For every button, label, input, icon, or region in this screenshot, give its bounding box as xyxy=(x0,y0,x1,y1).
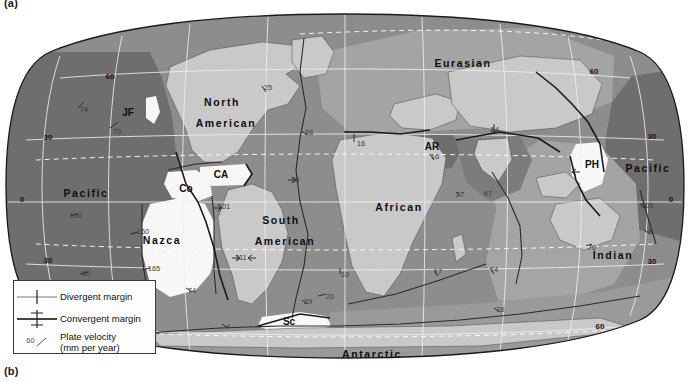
legend-label-velocity: Plate velocity (mm per year) xyxy=(60,332,120,353)
velocity-label: 100 xyxy=(70,211,83,220)
legend-row-velocity: 60 Plate velocity (mm per year) xyxy=(14,330,155,358)
legend-row-convergent: Convergent margin xyxy=(14,308,155,330)
latitude-label: 30 xyxy=(44,256,53,265)
velocity-label: 74 xyxy=(80,105,88,114)
legend-velocity-units: (mm per year) xyxy=(60,343,120,354)
plate-label: North xyxy=(204,96,240,108)
plate-label-philippine: PH xyxy=(585,159,599,170)
convergent-margin-symbol xyxy=(14,309,60,329)
latitude-label: 60 xyxy=(590,67,599,76)
legend-row-divergent: Divergent margin xyxy=(14,286,155,308)
velocity-label: 105 xyxy=(641,201,654,210)
velocity-label: 74 xyxy=(490,265,498,274)
velocity-label: 28 xyxy=(305,128,313,137)
latitude-label: 0 xyxy=(20,195,25,204)
velocity-label: 101 xyxy=(218,202,231,211)
plate-label: Eurasian xyxy=(434,57,491,69)
plate-label: South xyxy=(262,214,300,226)
velocity-label: 20 xyxy=(326,292,334,301)
plate-label: Pacific xyxy=(625,162,670,174)
velocity-label: 8 xyxy=(648,227,652,236)
latitude-label: 60 xyxy=(596,322,605,331)
plate-label: Pacific xyxy=(63,187,108,199)
velocity-label: 165 xyxy=(148,264,161,273)
velocity-label: 29 xyxy=(304,297,312,306)
plate-label-cocos: Co xyxy=(179,183,192,194)
velocity-label: 70 xyxy=(588,243,596,252)
legend-label-convergent: Convergent margin xyxy=(60,314,141,325)
legend-velocity-value: 60 xyxy=(26,336,34,345)
velocity-label: 67 xyxy=(484,189,492,198)
velocity-label: 25 xyxy=(264,83,272,92)
latitude-label: 30 xyxy=(648,257,657,266)
plate-label: American xyxy=(196,117,257,129)
latitude-label: 0 xyxy=(669,195,674,204)
plate-label: Indian xyxy=(593,249,634,261)
plate-label-juandefuca: JF xyxy=(122,107,134,118)
velocity-label: 111 xyxy=(235,253,246,262)
velocity-label: 74 xyxy=(188,286,196,295)
latitude-label: 30 xyxy=(648,132,657,141)
velocity-label: 70 xyxy=(113,127,121,136)
velocity-label: 10 xyxy=(341,270,349,279)
map-legend: Divergent margin Convergent margin 60 Pl… xyxy=(13,280,156,354)
plate-label-caribbean: CA xyxy=(214,169,228,180)
velocity-label: 80 xyxy=(82,269,90,278)
velocity-label: 38 xyxy=(291,175,299,184)
plate-velocity-symbol: 60 xyxy=(14,332,60,348)
velocity-label: 4 xyxy=(226,322,230,331)
latitude-label: 60 xyxy=(106,72,115,81)
plate-label: American xyxy=(255,235,316,247)
panel-label-a: (a) xyxy=(4,0,18,9)
velocity-label: 27 xyxy=(456,190,464,199)
velocity-label: 17 xyxy=(434,267,442,276)
plate-label-arabian: AR xyxy=(425,141,440,152)
legend-label-divergent: Divergent margin xyxy=(60,292,132,303)
velocity-label: 54 xyxy=(491,125,499,134)
divergent-margin-symbol xyxy=(14,288,60,306)
velocity-label: 16 xyxy=(431,152,439,161)
velocity-label: 160 xyxy=(137,227,150,236)
velocity-label: 78 xyxy=(496,305,504,314)
velocity-label: 16 xyxy=(357,139,365,148)
panel-label-b: (b) xyxy=(4,365,19,377)
plate-label: African xyxy=(375,201,422,213)
plate-label-scotia: Sc xyxy=(283,316,296,327)
legend-velocity-title: Plate velocity xyxy=(60,331,116,342)
latitude-label: 30 xyxy=(44,133,53,142)
